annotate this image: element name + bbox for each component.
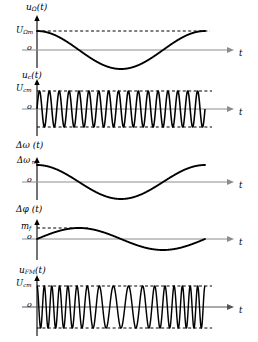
panel-fm-signal: uFM(t) Ucm o t	[0, 266, 258, 342]
time-axis-label-carrier-signal: t	[239, 108, 242, 117]
amplitude-label-frequency-deviation: Δω m	[17, 156, 37, 166]
x-axis-arrow	[227, 304, 234, 310]
amplitude-label-fm-signal: Ucm	[16, 279, 32, 289]
time-axis-label-phase-deviation: t	[239, 238, 242, 247]
x-axis-arrow	[227, 106, 234, 112]
fm-waveform-figure: uΩ(t) UΩm o t uc(t) Ucm o t	[0, 0, 258, 342]
panel-phase-deviation: Δφ (t) mf o t	[0, 204, 258, 266]
panel-frequency-deviation: Δω (t) Δω m o t	[0, 140, 258, 204]
ylabel-carrier-signal: uc(t)	[22, 71, 42, 80]
x-axis-arrow	[227, 179, 234, 185]
x-axis-arrow	[227, 236, 234, 242]
origin-label-modulating-signal: o	[27, 44, 32, 52]
ylabel-frequency-deviation: Δω (t)	[16, 141, 43, 150]
time-axis-label-frequency-deviation: t	[239, 181, 242, 190]
amplitude-label-phase-deviation: mf	[21, 222, 31, 232]
ylabel-fm-signal: uFM(t)	[19, 266, 46, 275]
time-axis-label-fm-signal: t	[239, 306, 242, 315]
axes-modulating-signal	[22, 15, 234, 68]
y-axis-arrow	[34, 275, 39, 281]
panel-carrier-signal: uc(t) Ucm o t	[0, 70, 258, 140]
ylabel-modulating-signal: uΩ(t)	[26, 3, 47, 12]
y-axis-arrow	[34, 15, 39, 21]
time-axis-label-modulating-signal: t	[239, 49, 242, 58]
plot-fm-signal	[0, 266, 258, 342]
axes-frequency-deviation	[22, 157, 234, 200]
plot-carrier-signal	[0, 70, 258, 140]
origin-label-frequency-deviation: o	[27, 176, 32, 184]
y-axis-arrow	[34, 219, 39, 225]
origin-label-phase-deviation: o	[27, 233, 32, 241]
x-axis-arrow	[227, 47, 234, 53]
amplitude-label-modulating-signal: UΩm	[16, 26, 33, 36]
amplitude-label-carrier-signal: Ucm	[16, 84, 32, 94]
curve-carrier-signal	[37, 91, 205, 127]
origin-label-carrier-signal: o	[27, 103, 32, 111]
ylabel-phase-deviation: Δφ (t)	[16, 205, 42, 214]
origin-label-fm-signal: o	[27, 301, 32, 309]
panel-modulating-signal: uΩ(t) UΩm o t	[0, 0, 258, 70]
